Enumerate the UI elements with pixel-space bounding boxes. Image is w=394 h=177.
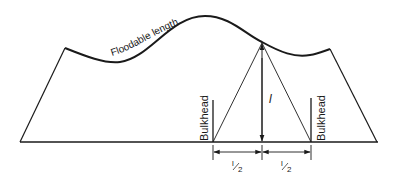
half-length-label-left: l 2 — [232, 159, 243, 174]
svg-text:2: 2 — [287, 165, 292, 174]
height-label: l — [269, 92, 272, 106]
floodable-length-diagram: Floodable length Bulkhead Bulkhead l l 2… — [0, 0, 394, 177]
svg-text:2: 2 — [238, 165, 243, 174]
floodable-length-curve — [65, 16, 330, 62]
svg-text:l: l — [281, 159, 283, 168]
svg-text:l: l — [232, 159, 234, 168]
bulkhead-right-label: Bulkhead — [315, 95, 327, 141]
right-end-line — [330, 49, 377, 142]
triangle-left-side — [213, 43, 262, 142]
half-length-label-right: l 2 — [281, 159, 292, 174]
bulkhead-left-label: Bulkhead — [198, 95, 210, 141]
left-end-line — [20, 48, 65, 142]
